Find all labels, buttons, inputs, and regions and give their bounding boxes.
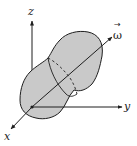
z-axis-label: z: [28, 6, 34, 17]
omega-label: → ω: [113, 25, 122, 43]
y-axis-label: y: [124, 101, 130, 112]
vector-arrow-icon: →: [114, 20, 121, 29]
x-axis: [11, 107, 32, 129]
x-axis-label: x: [4, 131, 10, 142]
origin-point: [30, 105, 33, 108]
omega-symbol: ω: [113, 29, 122, 42]
